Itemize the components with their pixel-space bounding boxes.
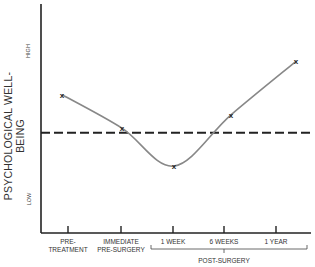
x-tick-label: 1 YEAR [264,238,287,246]
chart-svg: xxxxx [0,0,315,267]
post-surgery-label: POST-SURGERY [198,257,250,265]
post-surgery-bracket [151,245,307,253]
x-marker: x [229,111,234,120]
y-high-label: HIGH [25,44,31,58]
x-tick-label: PRE-TREATMENT [48,238,87,254]
x-tick-label: 6 WEEKS [210,238,239,246]
chart-area: xxxxx PSYCHOLOGICAL WELL-BEING HIGH LOW … [0,0,315,267]
x-marker: x [172,162,177,171]
x-ticks [68,226,276,233]
x-marker: x [120,124,125,133]
x-tick-label: IMMEDIATEPRE-SURGERY [97,238,145,254]
y-low-label: LOW [26,193,32,206]
x-marker: x [294,57,299,66]
data-markers: xxxxx [60,57,299,171]
y-axis-label: PSYCHOLOGICAL WELL-BEING [2,56,26,216]
x-marker: x [60,91,65,100]
x-tick-label: 1 WEEK [161,238,186,246]
well-being-curve [62,61,296,166]
